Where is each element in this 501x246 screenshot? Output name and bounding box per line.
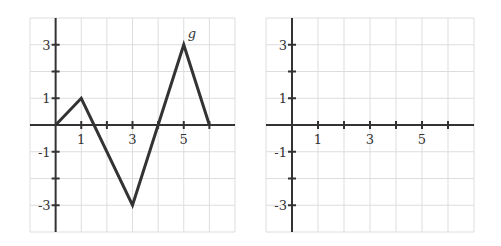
graph-panel-1: 13531-1-3g — [30, 18, 235, 232]
x-tick-label: 3 — [366, 132, 374, 147]
x-tick-label: 1 — [314, 132, 322, 147]
y-tick-label: -3 — [38, 198, 51, 213]
y-tick-label: 1 — [279, 91, 287, 106]
y-tick-label: -3 — [274, 198, 287, 213]
y-tick-label: -1 — [274, 145, 287, 160]
graphs: 13531-1-3g13531-1-3 — [0, 0, 501, 246]
function-label: g — [188, 26, 196, 41]
x-tick-label: 1 — [77, 132, 85, 147]
graph-panel-2: 13531-1-3 — [266, 18, 474, 232]
y-tick-label: 3 — [279, 38, 287, 53]
y-tick-label: -1 — [38, 145, 51, 160]
y-tick-label: 1 — [42, 91, 50, 106]
x-tick-label: 3 — [128, 132, 136, 147]
x-tick-label: 5 — [180, 132, 188, 147]
x-tick-label: 5 — [418, 132, 426, 147]
y-tick-label: 3 — [42, 38, 50, 53]
